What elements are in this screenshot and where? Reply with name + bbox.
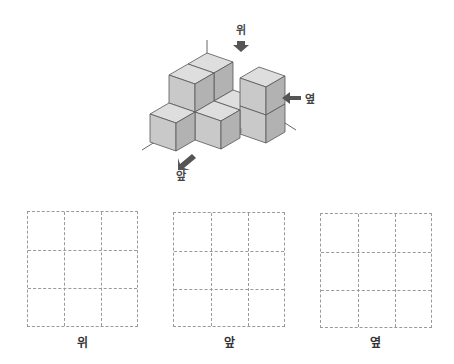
top-direction-label: 위	[236, 25, 246, 36]
grid-divider	[101, 212, 102, 326]
grid-divider	[174, 289, 284, 290]
front-view-label: 앞	[224, 337, 235, 349]
front-view-grid[interactable]	[173, 212, 285, 327]
cube-middle-front	[195, 101, 240, 149]
grid-divider	[248, 213, 249, 326]
top-view-label: 위	[77, 337, 88, 349]
arrow-front-icon	[178, 154, 196, 170]
cube-left-front	[150, 103, 195, 151]
top-view-grid[interactable]	[27, 211, 138, 327]
grid-divider	[211, 213, 212, 326]
cube-stack-illustration	[0, 0, 454, 200]
side-axis-line	[285, 123, 296, 130]
grid-divider	[174, 251, 284, 252]
side-view-label: 옆	[370, 337, 381, 349]
front-direction-label: 앞	[176, 171, 186, 182]
arrow-top-icon	[233, 41, 249, 52]
grid-divider	[321, 252, 431, 253]
grid-divider	[395, 214, 396, 327]
grid-divider	[358, 214, 359, 327]
cube-figure: 위 옆 앞	[0, 0, 454, 200]
side-direction-label: 옆	[305, 94, 315, 105]
grid-divider	[28, 250, 137, 251]
grid-divider	[321, 290, 431, 291]
grid-divider	[28, 288, 137, 289]
side-view-grid[interactable]	[320, 213, 432, 328]
grid-divider	[64, 212, 65, 326]
